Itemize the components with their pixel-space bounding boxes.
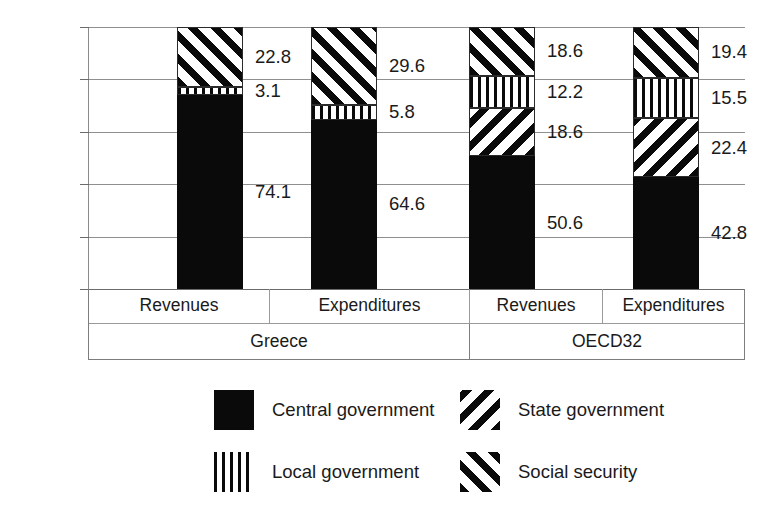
value-label-central-government: 74.1: [255, 183, 291, 202]
value-label-local-government: 5.8: [389, 103, 415, 122]
bar-segment-central-government[interactable]: [469, 156, 535, 289]
legend-label: Central government: [272, 399, 434, 421]
value-label-social-security: 19.4: [711, 43, 747, 62]
bar-segment-social-security[interactable]: [633, 27, 699, 78]
category-label-table: Revenues Expenditures Revenues Expenditu…: [88, 289, 745, 360]
value-label-state-government: 18.6: [547, 123, 583, 142]
group-cell-oecd32: OECD32: [469, 324, 744, 359]
value-label-local-government: 12.2: [547, 83, 583, 102]
category-row-groups: Greece OECD32: [89, 323, 744, 359]
value-label-social-security: 29.6: [389, 57, 425, 76]
value-label-social-security: 18.6: [547, 42, 583, 61]
bar-segment-state-government[interactable]: [633, 118, 699, 177]
bar-segment-local-government[interactable]: [311, 105, 377, 120]
value-label-social-security: 22.8: [255, 48, 291, 67]
group-label: OECD32: [572, 331, 642, 352]
bar-segment-social-security[interactable]: [177, 27, 243, 87]
category-cell-oecd32-revenues: Revenues: [469, 289, 602, 323]
y-tick-mark: [80, 237, 89, 238]
bar-segment-local-government[interactable]: [633, 78, 699, 119]
bar-greece-expenditures[interactable]: [311, 27, 377, 289]
bar-segment-social-security[interactable]: [469, 27, 535, 76]
legend-swatch-social-security-icon: [460, 452, 500, 492]
category-row-subgroups: Revenues Expenditures Revenues Expenditu…: [89, 289, 744, 323]
legend-label: Social security: [518, 461, 637, 483]
bar-segment-central-government[interactable]: [633, 177, 699, 289]
bar-segment-social-security[interactable]: [311, 27, 377, 105]
category-label: Expenditures: [622, 295, 724, 316]
bar-oecd32-revenues[interactable]: [469, 27, 535, 289]
bar-segment-local-government[interactable]: [469, 76, 535, 108]
category-cell-greece-revenues: Revenues: [89, 289, 269, 323]
category-cell-oecd32-expenditures: Expenditures: [602, 289, 744, 323]
y-tick-mark: [80, 79, 89, 80]
legend-item-state-government: State government: [460, 390, 664, 430]
value-label-local-government: 3.1: [255, 82, 281, 101]
stacked-bar-chart: 100%80%60%40%20%0% 74.13.122.864.65.829.…: [0, 0, 783, 526]
legend-swatch-state-government-icon: [460, 390, 500, 430]
category-label: Revenues: [140, 295, 219, 316]
value-label-local-government: 15.5: [711, 89, 747, 108]
legend: Central government State government Loca…: [214, 390, 634, 510]
legend-item-social-security: Social security: [460, 452, 637, 492]
value-label-central-government: 64.6: [389, 195, 425, 214]
y-tick-mark: [80, 132, 89, 133]
group-cell-greece: Greece: [89, 324, 469, 359]
legend-swatch-local-government-icon: [214, 452, 254, 492]
plot-area: 100%80%60%40%20%0% 74.13.122.864.65.829.…: [88, 27, 745, 289]
group-label: Greece: [250, 331, 307, 352]
category-label: Revenues: [497, 295, 576, 316]
legend-label: Local government: [272, 461, 419, 483]
bar-segment-central-government[interactable]: [177, 95, 243, 289]
category-cell-greece-expenditures: Expenditures: [269, 289, 469, 323]
category-label: Expenditures: [318, 295, 420, 316]
bar-segment-state-government[interactable]: [469, 108, 535, 157]
bar-oecd32-expenditures[interactable]: [633, 27, 699, 289]
value-label-central-government: 50.6: [547, 214, 583, 233]
value-label-state-government: 22.4: [711, 139, 747, 158]
legend-label: State government: [518, 399, 664, 421]
value-label-central-government: 42.8: [711, 224, 747, 243]
bar-segment-central-government[interactable]: [311, 120, 377, 289]
y-tick-mark: [80, 184, 89, 185]
bar-greece-revenues[interactable]: [177, 27, 243, 289]
legend-item-local-government: Local government: [214, 452, 419, 492]
legend-swatch-central-government-icon: [214, 390, 254, 430]
bar-segment-local-government[interactable]: [177, 87, 243, 95]
y-tick-mark: [80, 27, 89, 28]
legend-item-central-government: Central government: [214, 390, 434, 430]
